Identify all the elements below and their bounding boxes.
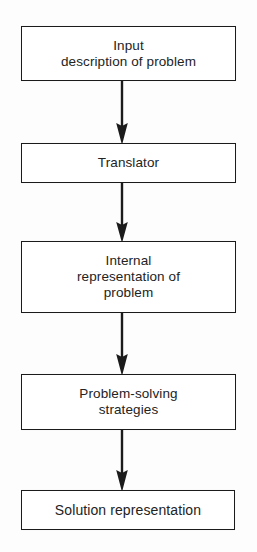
flowchart-node-problem-solving-strategies-label: Problem-solving strategies — [75, 386, 181, 418]
down-arrow-icon — [110, 312, 134, 376]
flowchart-node-internal-representation-label: Internal representation of problem — [73, 253, 184, 301]
flowchart-node-translator-label: Translator — [94, 155, 163, 171]
flowchart-diagram: Input description of problem Translator … — [0, 0, 257, 552]
flowchart-node-input: Input description of problem — [21, 26, 236, 81]
flowchart-node-solution-representation-label: Solution representation — [51, 502, 205, 519]
flowchart-node-input-label: Input description of problem — [57, 38, 200, 70]
flowchart-node-solution-representation: Solution representation — [21, 490, 235, 530]
down-arrow-icon — [110, 80, 134, 145]
flowchart-arrow-internal-to-strategies — [110, 312, 134, 376]
flowchart-arrow-translator-to-internal — [110, 182, 134, 243]
flowchart-node-problem-solving-strategies: Problem-solving strategies — [21, 374, 236, 430]
flowchart-node-translator: Translator — [21, 143, 236, 183]
flowchart-arrow-strategies-to-solution — [110, 429, 134, 492]
flowchart-arrow-input-to-translator — [110, 80, 134, 145]
down-arrow-icon — [110, 429, 134, 492]
flowchart-node-internal-representation: Internal representation of problem — [21, 241, 236, 313]
down-arrow-icon — [110, 182, 134, 243]
